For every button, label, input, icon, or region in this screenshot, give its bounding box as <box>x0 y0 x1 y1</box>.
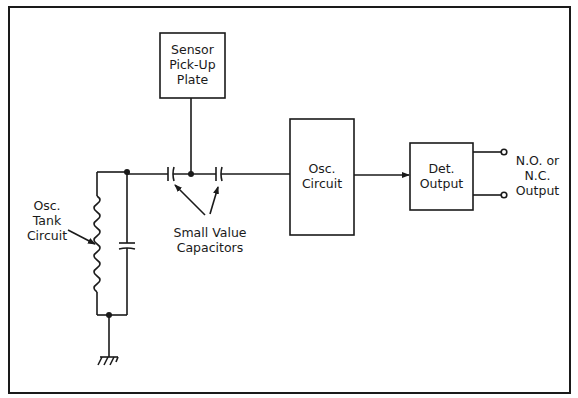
coupling-capacitor-1-icon <box>168 167 174 181</box>
junction-dot <box>106 312 112 318</box>
output-terminal-nc-icon <box>501 192 507 198</box>
junction-dot <box>188 171 194 177</box>
output-terminal-no-icon <box>501 149 507 155</box>
circuit-diagram <box>0 0 578 398</box>
junction-dot <box>124 169 130 175</box>
osc-circuit-label: Osc. Circuit <box>290 161 354 191</box>
ground-icon <box>98 357 118 365</box>
coupling-capacitor-2-icon <box>216 167 222 181</box>
sensor-plate-label: Sensor Pick-Up Plate <box>160 42 225 87</box>
output-label: N.O. or N.C. Output <box>510 153 565 198</box>
det-output-label: Det. Output <box>410 161 473 191</box>
small-value-capacitors-label: Small Value Capacitors <box>165 225 255 255</box>
tank-circuit-label: Osc. Tank Circuit <box>22 198 72 243</box>
